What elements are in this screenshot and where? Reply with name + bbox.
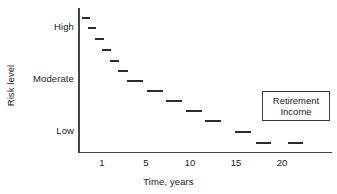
data-point-marker — [166, 100, 182, 102]
data-point-marker — [205, 120, 221, 122]
data-point-marker — [102, 49, 111, 51]
x-tick-label-5: 5 — [134, 157, 158, 168]
x-axis-line — [78, 152, 332, 154]
y-tick-label-low: Low — [56, 126, 74, 136]
data-point-marker — [186, 110, 202, 112]
risk-level-chart: High Moderate Low Risk level 15101520 Ti… — [0, 0, 337, 194]
data-point-marker — [82, 17, 90, 19]
data-point-marker — [256, 142, 271, 144]
y-tick-label-high: High — [54, 22, 74, 32]
legend-box-retirement-income: Retirement Income — [262, 91, 330, 121]
x-axis-title: Time, years — [0, 176, 337, 187]
y-tick-label-moderate: Moderate — [33, 74, 74, 84]
data-point-marker — [288, 142, 303, 144]
y-axis-line — [78, 8, 80, 153]
legend-label-line-1: Retirement — [273, 95, 319, 107]
x-tick-label-20: 20 — [270, 157, 294, 168]
x-tick-label-15: 15 — [224, 157, 248, 168]
data-point-marker — [147, 90, 163, 92]
data-point-marker — [235, 131, 251, 133]
legend-label-line-2: Income — [280, 106, 311, 118]
data-point-marker — [110, 60, 119, 62]
data-point-marker — [118, 70, 128, 72]
y-axis-title: Risk level — [5, 54, 16, 118]
data-point-marker — [95, 38, 104, 40]
x-tick-label-10: 10 — [178, 157, 202, 168]
data-point-marker — [88, 27, 96, 29]
data-point-marker — [127, 80, 143, 82]
x-tick-label-1: 1 — [90, 157, 114, 168]
